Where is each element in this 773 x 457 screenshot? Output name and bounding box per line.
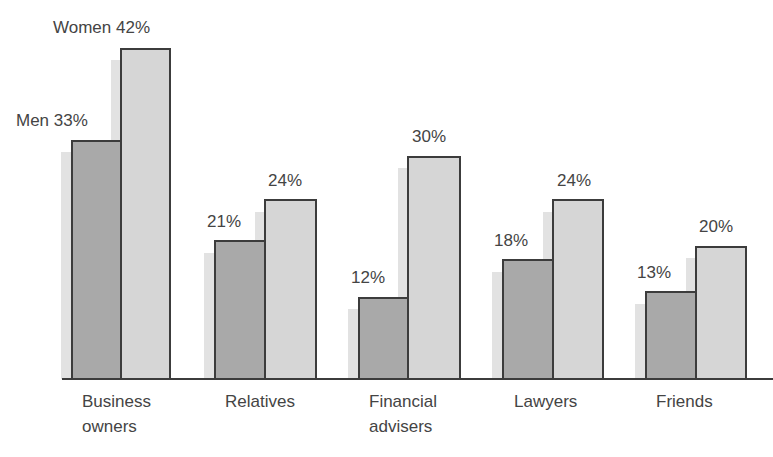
category-label-financial-advisers: Financial advisers xyxy=(369,389,437,439)
bar-shadow xyxy=(492,272,502,379)
value-label-men: 12% xyxy=(351,268,385,288)
category-label-business-owners: Business owners xyxy=(82,389,151,439)
value-label-men: 13% xyxy=(637,263,671,283)
bar-women-financial-advisers xyxy=(407,156,461,380)
bar-men-friends xyxy=(645,291,697,380)
value-label-women: 24% xyxy=(557,171,591,191)
category-label-line: Relatives xyxy=(225,389,295,414)
category-label-friends: Friends xyxy=(656,389,713,414)
bar-shadow xyxy=(61,152,71,379)
bar-women-relatives xyxy=(264,199,317,380)
bar-men-financial-advisers xyxy=(358,297,409,380)
value-label-women: 20% xyxy=(699,217,733,237)
category-label-line: advisers xyxy=(369,414,437,439)
bar-men-lawyers xyxy=(502,259,554,380)
value-label-women: 24% xyxy=(268,171,302,191)
category-label-line: Lawyers xyxy=(514,389,577,414)
bar-chart: Men 33% Women 42% 21% 24% 12% 30% 18% 24… xyxy=(0,0,773,457)
x-axis-line xyxy=(62,378,773,380)
value-label-women: Women 42% xyxy=(53,18,150,38)
category-label-line: Friends xyxy=(656,389,713,414)
bar-shadow xyxy=(635,304,645,379)
value-label-women: 30% xyxy=(412,127,446,147)
category-label-line: Business xyxy=(82,389,151,414)
bar-shadow xyxy=(204,253,214,379)
category-label-relatives: Relatives xyxy=(225,389,295,414)
category-label-line: Financial xyxy=(369,389,437,414)
bar-shadow xyxy=(348,309,358,379)
value-label-men: Men 33% xyxy=(16,111,88,131)
bar-women-business-owners xyxy=(120,48,171,380)
category-label-lawyers: Lawyers xyxy=(514,389,577,414)
bar-men-business-owners xyxy=(71,140,122,380)
category-label-line: owners xyxy=(82,414,151,439)
value-label-men: 18% xyxy=(494,231,528,251)
value-label-men: 21% xyxy=(207,212,241,232)
bar-women-lawyers xyxy=(552,199,604,380)
bar-men-relatives xyxy=(214,240,266,380)
bar-women-friends xyxy=(695,246,747,380)
